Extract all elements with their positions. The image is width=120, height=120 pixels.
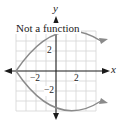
y-axis-down-arrow-icon: [53, 113, 59, 120]
x-tick-2: 2: [74, 74, 79, 84]
x-axis-right-arrow-icon: [102, 68, 110, 74]
curve-upper-arrow-icon: [99, 38, 108, 44]
chart-title: Not a function: [15, 23, 81, 34]
graph-canvas: [0, 0, 120, 120]
y-axis-label: y: [53, 3, 58, 14]
x-axis-left-arrow-icon: [4, 68, 12, 74]
x-axis-label: x: [111, 64, 116, 75]
x-axis: [4, 68, 110, 74]
y-tick-neg2: −2: [44, 86, 54, 96]
x-tick-neg2: −2: [30, 74, 40, 84]
y-tick-2: 2: [47, 46, 52, 56]
curve-lower-arrow-icon: [99, 98, 108, 104]
